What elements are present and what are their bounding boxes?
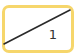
diagonal-slash-icon xyxy=(0,0,76,55)
denominator-label: 1 xyxy=(46,28,60,42)
